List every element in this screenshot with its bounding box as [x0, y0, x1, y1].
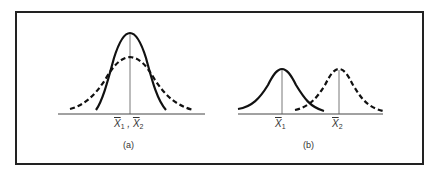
panel-b-caption: (b)	[303, 140, 314, 150]
subscript-1: 1	[282, 123, 286, 130]
subscript-2: 2	[339, 123, 343, 130]
x-bar-1-symbol: X	[275, 118, 282, 129]
distribution-diagram	[0, 0, 436, 172]
panel-b	[238, 69, 383, 114]
panel-b-mean-2-label: X2	[332, 118, 343, 130]
subscript-2: 2	[140, 123, 144, 130]
panel-b-solid-curve	[238, 69, 324, 111]
x-bar-2-symbol: X	[332, 118, 339, 129]
panel-a	[58, 33, 205, 114]
x-bar-1-symbol: X	[114, 118, 121, 129]
panel-a-dashed-curve	[70, 57, 193, 110]
panel-a-mean-label: X1 , X2	[114, 118, 144, 130]
panel-b-mean-1-label: X1	[275, 118, 286, 130]
x-bar-2-symbol: X	[133, 118, 140, 129]
panel-a-solid-curve	[96, 33, 166, 110]
panel-a-caption: (a)	[123, 140, 134, 150]
label-separator: ,	[125, 118, 133, 129]
